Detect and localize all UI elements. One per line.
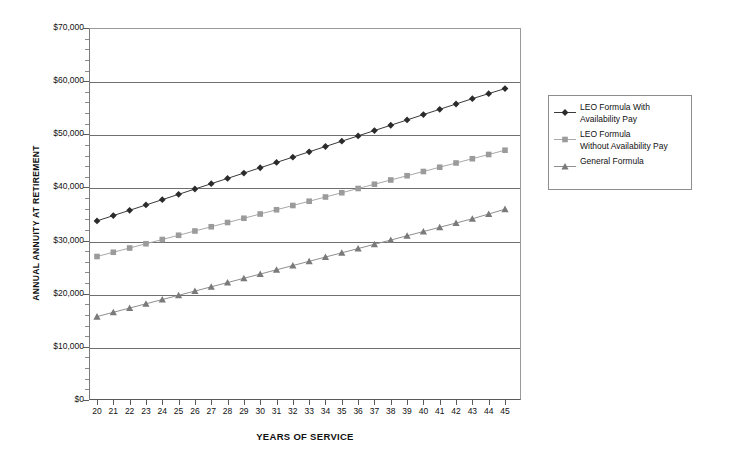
x-tick — [391, 400, 392, 405]
x-tick — [309, 400, 310, 405]
x-tick — [130, 400, 131, 405]
y-tick-label: $20,000 — [22, 289, 84, 298]
gridline — [90, 295, 520, 296]
x-tick-label: 45 — [494, 407, 516, 416]
y-tick-label: $0 — [22, 395, 84, 404]
y-tick-label: $70,000 — [22, 23, 84, 32]
legend-item: General Formula — [553, 156, 686, 169]
y-tick-label: $30,000 — [22, 236, 84, 245]
x-tick — [260, 400, 261, 405]
x-tick — [325, 400, 326, 405]
gridline — [90, 82, 520, 83]
annuity-line-chart: ANNUAL ANNUITY AT RETIREMENT $0$10,000$2… — [0, 0, 731, 466]
x-axis-title: YEARS OF SERVICE — [89, 431, 521, 442]
x-tick — [505, 400, 506, 405]
x-tick — [407, 400, 408, 405]
x-tick — [374, 400, 375, 405]
x-tick — [423, 400, 424, 405]
x-tick — [97, 400, 98, 405]
x-tick — [293, 400, 294, 405]
square-marker-icon — [553, 131, 577, 142]
x-tick — [146, 400, 147, 405]
legend-label: LEO Formula With Availability Pay — [580, 102, 650, 125]
chart-legend: LEO Formula With Availability PayLEO For… — [548, 95, 692, 190]
gridline — [90, 242, 520, 243]
legend-label: LEO Formula Without Availability Pay — [580, 129, 668, 152]
y-tick-label: $10,000 — [22, 342, 84, 351]
x-tick — [342, 400, 343, 405]
x-tick — [195, 400, 196, 405]
legend-item: LEO Formula Without Availability Pay — [553, 129, 686, 152]
triangle-marker-icon — [553, 158, 577, 169]
gridline — [90, 135, 520, 136]
legend-label: General Formula — [580, 156, 644, 168]
x-tick — [358, 400, 359, 405]
legend-item: LEO Formula With Availability Pay — [553, 102, 686, 125]
x-tick — [211, 400, 212, 405]
gridline — [90, 188, 520, 189]
x-tick — [440, 400, 441, 405]
x-tick — [244, 400, 245, 405]
y-tick-label: $60,000 — [22, 76, 84, 85]
x-tick — [489, 400, 490, 405]
x-tick — [277, 400, 278, 405]
y-tick-major — [83, 400, 89, 401]
diamond-marker-icon — [553, 104, 577, 115]
x-tick — [113, 400, 114, 405]
x-tick — [456, 400, 457, 405]
y-tick-label: $40,000 — [22, 182, 84, 191]
x-tick — [228, 400, 229, 405]
gridline — [90, 348, 520, 349]
x-tick — [162, 400, 163, 405]
x-tick — [179, 400, 180, 405]
y-tick-label: $50,000 — [22, 129, 84, 138]
x-tick — [472, 400, 473, 405]
plot-area — [89, 28, 521, 400]
